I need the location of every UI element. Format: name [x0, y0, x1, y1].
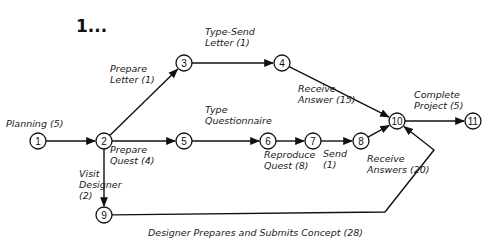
activity-label-line: Designer — [79, 179, 123, 190]
event-node-9: 9 — [96, 207, 112, 223]
event-node-8: 8 — [353, 133, 369, 149]
event-node-number: 6 — [265, 136, 271, 147]
activity-label-1-2: Planning (5) — [6, 118, 63, 129]
activity-label-line: Prepare — [110, 63, 147, 74]
event-node-number: 8 — [358, 136, 364, 147]
activity-labels: Planning (5)PrepareLetter (1)Type-SendLe… — [6, 26, 463, 238]
activity-label-line: Letter (1) — [110, 74, 155, 85]
event-node-5: 5 — [176, 133, 192, 149]
event-node-number: 7 — [310, 136, 316, 147]
event-node-10: 10 — [389, 113, 405, 129]
event-node-number: 5 — [181, 136, 187, 147]
event-node-2: 2 — [96, 133, 112, 149]
activity-label-line: Visit — [79, 168, 101, 179]
activity-label-line: Reproduce — [264, 149, 315, 160]
event-node-number: 11 — [468, 116, 479, 127]
event-node-number: 10 — [391, 116, 403, 127]
activity-label-line: Answers (20) — [366, 164, 429, 175]
activity-label-line: Questionnaire — [205, 115, 272, 126]
activity-label-3-4: Type-SendLetter (1) — [205, 26, 256, 48]
activity-label-2-5: PrepareQuest (4) — [110, 144, 155, 166]
activity-label-line: Complete — [414, 89, 460, 100]
activity-label-line: Type — [205, 104, 228, 115]
activity-label-2-3: PrepareLetter (1) — [110, 63, 155, 85]
activity-label-line: Type-Send — [205, 26, 256, 37]
activity-label-line: Designer Prepares and Submits Concept (2… — [148, 227, 363, 238]
activity-label-line: Quest (8) — [264, 160, 309, 171]
activity-label-line: Letter (1) — [205, 37, 250, 48]
event-node-6: 6 — [260, 133, 276, 149]
event-node-3: 3 — [176, 55, 192, 71]
activity-label-10-11: CompleteProject (5) — [414, 89, 463, 111]
event-node-1: 1 — [30, 133, 46, 149]
figure-title: 1... — [76, 16, 107, 36]
activity-label-line: Answer (15) — [297, 94, 356, 105]
activity-label-line: Receive — [298, 83, 336, 94]
event-node-11: 11 — [465, 113, 481, 129]
event-node-number: 3 — [181, 58, 187, 69]
activity-label-line: Send — [323, 148, 348, 159]
activity-label-2-9: VisitDesigner(2) — [79, 168, 123, 201]
activity-label-4-10: ReceiveAnswer (15) — [297, 83, 356, 105]
activity-label-line: Project (5) — [414, 100, 463, 111]
activity-label-line: Prepare — [110, 144, 147, 155]
pert-network-diagram: 1... Planning (5)PrepareLetter (1)Type-S… — [0, 0, 497, 243]
event-node-number: 1 — [35, 136, 41, 147]
event-node-4: 4 — [274, 55, 290, 71]
event-node-number: 9 — [101, 210, 107, 221]
activity-label-7-8: Send(1) — [323, 148, 348, 170]
event-nodes: 1234567891011 — [30, 55, 481, 223]
activity-label-6-7: ReproduceQuest (8) — [264, 149, 315, 171]
activity-label-line: Planning (5) — [6, 118, 63, 129]
activity-label-line: Quest (4) — [110, 155, 155, 166]
activity-label-line: (2) — [79, 190, 92, 201]
activity-label-8-10: ReceiveAnswers (20) — [366, 153, 429, 175]
event-node-number: 2 — [101, 136, 107, 147]
event-node-7: 7 — [305, 133, 321, 149]
activity-label-9-10: Designer Prepares and Submits Concept (2… — [148, 227, 363, 238]
event-node-number: 4 — [279, 58, 285, 69]
activity-label-5-6: TypeQuestionnaire — [205, 104, 272, 126]
activity-arrow-8-10 — [368, 125, 389, 137]
activity-label-line: Receive — [367, 153, 405, 164]
activity-label-line: (1) — [323, 159, 336, 170]
